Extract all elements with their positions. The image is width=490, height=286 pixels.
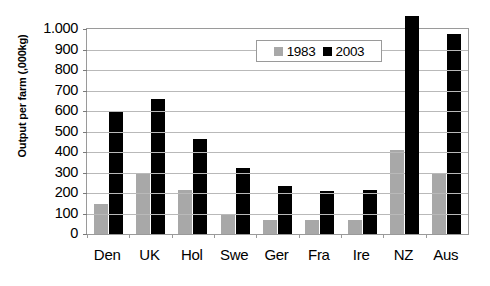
y-axis-tick-label: 1.000 — [10, 21, 78, 35]
bar-fra-2003 — [320, 191, 334, 234]
bar-uk-1983 — [136, 173, 150, 235]
bar-chart: Output per farm (,000kg) 1.0009008007006… — [0, 0, 490, 286]
y-axis-tick — [83, 29, 87, 30]
y-axis-tick — [83, 70, 87, 71]
bar-ire-1983 — [348, 220, 362, 234]
x-axis-tick — [214, 234, 215, 238]
y-axis-tick-label: 900 — [10, 42, 78, 56]
y-axis-tick-labels: 1.0009008007006005004003002001000 — [8, 0, 78, 286]
x-axis-tick — [172, 234, 173, 238]
legend-label: 2003 — [336, 45, 365, 58]
bar-nz-2003 — [405, 16, 419, 234]
y-axis-tick-label: 0 — [10, 226, 78, 240]
x-axis-tick-label: UK — [128, 246, 170, 264]
x-axis-tick-label: Fra — [298, 246, 340, 264]
gray-square-icon — [274, 47, 283, 56]
y-axis-tick — [83, 173, 87, 174]
y-axis-tick — [83, 193, 87, 194]
bar-aus-1983 — [432, 173, 446, 235]
y-axis-tick-label: 600 — [10, 103, 78, 117]
x-axis-tick-labels: DenUKHolSweGerFraIreNZAus — [86, 246, 467, 270]
x-axis-tick — [426, 234, 427, 238]
x-axis-tick-label: Hol — [171, 246, 213, 264]
bar-ger-1983 — [263, 220, 277, 234]
x-axis-tick-label: Ger — [255, 246, 297, 264]
x-axis-tick — [383, 234, 384, 238]
bar-hol-1983 — [178, 190, 192, 234]
x-axis-tick-label: Den — [86, 246, 128, 264]
x-axis-tick-label: Ire — [340, 246, 382, 264]
x-axis-tick — [341, 234, 342, 238]
y-axis-tick — [83, 214, 87, 215]
bar-aus-2003 — [447, 34, 461, 234]
y-axis-tick-label: 800 — [10, 62, 78, 76]
legend-entry-2003: 2003 — [323, 45, 365, 58]
y-axis-tick-label: 400 — [10, 144, 78, 158]
y-axis-tick-label: 100 — [10, 206, 78, 220]
x-axis-tick-label: Swe — [213, 246, 255, 264]
x-axis-tick — [129, 234, 130, 238]
bar-swe-2003 — [236, 168, 250, 234]
black-square-icon — [323, 47, 332, 56]
x-axis-tick — [256, 234, 257, 238]
chart-legend: 19832003 — [256, 40, 382, 62]
bar-ire-2003 — [363, 190, 377, 234]
x-axis-tick — [87, 234, 88, 238]
y-axis-tick-label: 500 — [10, 124, 78, 138]
bar-den-1983 — [94, 204, 108, 234]
bar-nz-1983 — [390, 150, 404, 234]
y-axis-tick — [83, 111, 87, 112]
bar-swe-1983 — [221, 215, 235, 234]
legend-entry-1983: 1983 — [274, 45, 316, 58]
y-axis-tick — [83, 132, 87, 133]
legend-label: 1983 — [287, 45, 316, 58]
y-axis-tick — [83, 50, 87, 51]
y-axis-tick-label: 200 — [10, 185, 78, 199]
y-axis-tick — [83, 152, 87, 153]
y-axis-tick — [83, 234, 87, 235]
x-axis-tick-label: Aus — [425, 246, 467, 264]
x-axis-tick — [299, 234, 300, 238]
bar-fra-1983 — [305, 220, 319, 234]
y-axis-tick — [83, 91, 87, 92]
y-axis-tick-label: 300 — [10, 165, 78, 179]
x-axis-tick-label: NZ — [382, 246, 424, 264]
y-axis-tick-label: 700 — [10, 83, 78, 97]
